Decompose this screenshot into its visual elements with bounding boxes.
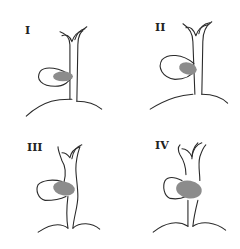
duct-left-wall	[60, 32, 70, 99]
classification-figure: I II III	[0, 0, 240, 249]
biliary-diagram	[0, 125, 120, 249]
biliary-diagram	[120, 0, 240, 124]
gallstone	[175, 178, 204, 200]
duct-left-wall	[183, 24, 195, 94]
panel-type-1: I	[0, 0, 120, 124]
duodenum-curve	[153, 223, 225, 232]
duodenum-curve	[38, 224, 100, 232]
duct-right-wall	[202, 22, 212, 94]
gallstone	[52, 180, 76, 197]
gallstone	[53, 71, 73, 81]
duct-right-wall	[77, 27, 87, 101]
panel-type-3: III	[0, 125, 120, 249]
duodenum-curve	[26, 99, 101, 116]
panel-type-4: IV	[120, 125, 240, 249]
gallstone	[178, 60, 198, 76]
panel-type-2: II	[120, 0, 240, 124]
biliary-diagram	[120, 125, 240, 249]
biliary-diagram	[0, 0, 120, 124]
duodenum-curve	[150, 94, 227, 109]
